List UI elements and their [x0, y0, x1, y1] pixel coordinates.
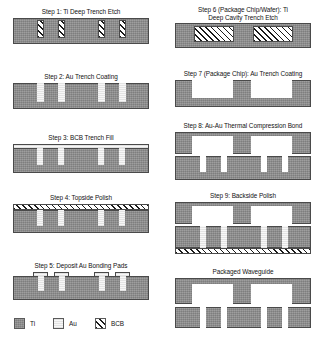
- au-trench-coating: [99, 276, 105, 291]
- packaged-waveguide: Packaged Waveguide: [162, 268, 324, 328]
- step-4-figure: [13, 204, 149, 233]
- packaged-waveguide-caption: Packaged Waveguide: [167, 268, 319, 276]
- step-9: Step 9: Backside Polish: [162, 192, 324, 254]
- step-4-caption: Step 4: Topside Polish: [5, 194, 157, 202]
- step-2-caption: Step 2: Au Trench Coating: [5, 73, 157, 81]
- step-3: Step 3: BCB Trench Fill: [0, 134, 162, 173]
- ti-substrate: [13, 18, 149, 44]
- bcb-swatch-icon: [95, 318, 106, 329]
- legend-item-ti: Ti: [14, 318, 35, 329]
- au-trench-coating: [58, 210, 64, 226]
- step-5: Step 5: Deposit Au Bonding Pads: [0, 262, 162, 300]
- legend-label-ti: Ti: [30, 320, 35, 327]
- au-coated-cavity: [192, 80, 233, 98]
- legend-label-bcb: BCB: [111, 320, 124, 327]
- step-7: Step 7 (Package Chip): Au Trench Coating: [162, 70, 324, 107]
- step-6: Step 6 (Package Chip/Wafer): Ti Deep Cav…: [162, 6, 324, 48]
- ti-device-wafer: [175, 307, 311, 328]
- au-bonded-pillar: [221, 226, 227, 248]
- ti-substrate: [13, 148, 149, 173]
- bcb-trench: [58, 20, 65, 38]
- left-column: Step 1: Ti Deep Trench Etch Step 2: Au T…: [0, 0, 162, 349]
- au-trench-coating: [98, 210, 104, 226]
- au-waveguide-pillar: [200, 307, 206, 328]
- au-trench-coating: [120, 276, 126, 291]
- au-trench-coating: [58, 83, 65, 102]
- step-8: Step 8: Au-Au Thermal Compression Bond: [162, 122, 324, 180]
- bcb-trench: [98, 20, 105, 38]
- step-4: Step 4: Topside Polish: [0, 194, 162, 233]
- au-bonded-pillar: [200, 154, 206, 172]
- packaged-waveguide-figure: [175, 278, 311, 328]
- au-bonded-pillar: [261, 226, 267, 248]
- au-bonded-pillar: [282, 226, 288, 248]
- step-6-figure: [175, 23, 311, 48]
- step-3-figure: [13, 144, 149, 173]
- ti-substrate: [13, 83, 149, 109]
- step-8-caption: Step 8: Au-Au Thermal Compression Bond: [167, 122, 319, 130]
- bcb-trench: [119, 20, 126, 38]
- au-swatch-icon: [53, 318, 64, 329]
- legend-item-au: Au: [53, 318, 77, 329]
- step-6-caption: Step 6 (Package Chip/Wafer): Ti Deep Cav…: [167, 6, 319, 21]
- step-5-figure: [13, 272, 149, 300]
- au-trench-coating: [98, 148, 104, 165]
- ti-substrate: [13, 210, 149, 233]
- waveguide-cavity: [192, 284, 233, 304]
- au-coated-cavity: [192, 206, 233, 224]
- process-flow-figure: Step 1: Ti Deep Trench Etch Step 2: Au T…: [0, 0, 324, 349]
- au-trench-coating: [37, 83, 44, 102]
- step-2-figure: [13, 83, 149, 109]
- ti-device-wafer: [175, 226, 311, 248]
- step-7-caption: Step 7 (Package Chip): Au Trench Coating: [167, 70, 319, 78]
- au-trench-coating: [59, 276, 65, 291]
- legend-label-au: Au: [69, 320, 77, 327]
- au-trench-coating: [119, 148, 125, 165]
- au-bonded-pillar: [282, 154, 288, 172]
- legend: Ti Au BCB: [14, 318, 142, 329]
- step-1-caption: Step 1: Ti Deep Trench Etch: [5, 8, 157, 16]
- step-9-figure: [175, 202, 311, 254]
- step-2: Step 2: Au Trench Coating: [0, 73, 162, 109]
- au-waveguide-pillar: [261, 307, 267, 328]
- step-9-caption: Step 9: Backside Polish: [167, 192, 319, 200]
- step-1-figure: [13, 18, 149, 44]
- au-waveguide-pillar: [282, 307, 288, 328]
- waveguide-cavity: [251, 284, 292, 304]
- au-coated-cavity: [251, 206, 292, 224]
- au-trench-coating: [119, 210, 125, 226]
- au-trench-coating: [98, 83, 105, 102]
- bcb-overcoat-layer: [13, 144, 149, 149]
- bcb-cavity: [253, 26, 293, 42]
- bcb-backside-band: [175, 248, 311, 254]
- au-coated-cavity: [251, 80, 292, 98]
- step-3-caption: Step 3: BCB Trench Fill: [5, 134, 157, 142]
- au-coated-cavity: [251, 136, 292, 154]
- ti-swatch-icon: [14, 318, 25, 329]
- ti-substrate: [13, 276, 149, 300]
- au-bonded-pillar: [221, 154, 227, 172]
- au-trench-coating: [58, 148, 64, 165]
- au-trench-coating: [38, 276, 44, 291]
- bcb-trench: [37, 20, 44, 38]
- legend-item-bcb: BCB: [95, 318, 124, 329]
- au-trench-coating: [119, 83, 126, 102]
- step-7-figure: [175, 80, 311, 107]
- au-coated-cavity: [192, 136, 233, 154]
- au-waveguide-pillar: [221, 307, 227, 328]
- au-bonded-pillar: [200, 226, 206, 248]
- step-5-caption: Step 5: Deposit Au Bonding Pads: [5, 262, 157, 270]
- ti-device-wafer: [175, 156, 311, 180]
- step-8-figure: [175, 132, 311, 180]
- au-trench-coating: [37, 148, 43, 165]
- right-column: Step 6 (Package Chip/Wafer): Ti Deep Cav…: [162, 0, 324, 349]
- bcb-cavity: [194, 26, 234, 42]
- step-1: Step 1: Ti Deep Trench Etch: [0, 8, 162, 44]
- au-bonded-pillar: [261, 154, 267, 172]
- au-trench-coating: [37, 210, 43, 226]
